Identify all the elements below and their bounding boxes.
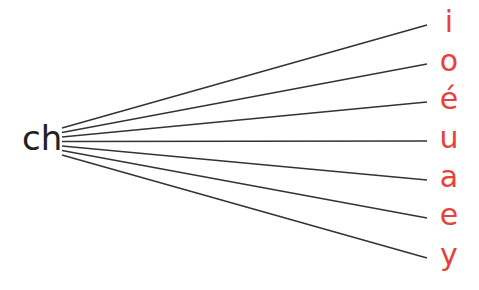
target-label: é — [434, 82, 464, 116]
fan-lines — [0, 0, 479, 290]
connector-line — [62, 146, 427, 180]
target-label: y — [434, 238, 464, 272]
connector-line — [62, 151, 427, 219]
target-label: o — [434, 44, 464, 78]
target-label: i — [434, 5, 464, 39]
connector-line — [62, 141, 427, 142]
connector-line — [62, 155, 427, 258]
connector-line — [62, 64, 427, 133]
target-label: a — [434, 160, 464, 194]
source-label: ch — [22, 118, 62, 158]
target-label: u — [434, 121, 464, 155]
target-label: e — [434, 198, 464, 232]
connector-line — [62, 25, 427, 128]
connector-line — [62, 102, 427, 137]
